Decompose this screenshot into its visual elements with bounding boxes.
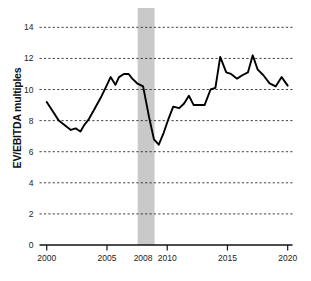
data-series-layer bbox=[47, 55, 288, 144]
y-tick-label-10: 10 bbox=[18, 85, 34, 95]
y-tick-label-8: 8 bbox=[18, 116, 34, 126]
x-tick-label-2005: 2005 bbox=[89, 253, 125, 263]
gridlines-layer bbox=[40, 27, 293, 214]
chart-container: EV/EBITDA multiples 02468101214 20002005… bbox=[0, 0, 311, 281]
x-tick-label-2015: 2015 bbox=[209, 253, 245, 263]
recession-band-label: 2008 bbox=[125, 253, 161, 263]
y-tick-label-4: 4 bbox=[18, 178, 34, 188]
y-tick-label-0: 0 bbox=[18, 240, 34, 250]
y-tick-label-12: 12 bbox=[18, 53, 34, 63]
x-tick-label-2000: 2000 bbox=[29, 253, 65, 263]
y-tick-label-6: 6 bbox=[18, 147, 34, 157]
line-chart-plot bbox=[0, 0, 311, 281]
x-axis-ticks-layer bbox=[47, 245, 288, 251]
x-tick-label-2020: 2020 bbox=[270, 253, 306, 263]
data-line-0 bbox=[47, 55, 288, 144]
y-tick-label-14: 14 bbox=[18, 22, 34, 32]
y-tick-label-2: 2 bbox=[18, 209, 34, 219]
